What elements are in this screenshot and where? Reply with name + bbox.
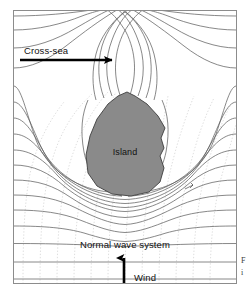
wave-refraction-diagram: Island Cross-sea Normal wave system Wind xyxy=(0,0,250,296)
wind-label: Wind xyxy=(134,272,156,283)
normal-wave-system-label: Normal wave system xyxy=(80,239,170,250)
cross-sea-label: Cross-sea xyxy=(24,45,69,56)
caption-sliver-line2: i xyxy=(241,268,250,277)
wave-refraction-figure: Island Cross-sea Normal wave system Wind… xyxy=(0,0,250,296)
island-label: Island xyxy=(113,147,138,157)
caption-sliver-line1: F xyxy=(241,256,250,265)
